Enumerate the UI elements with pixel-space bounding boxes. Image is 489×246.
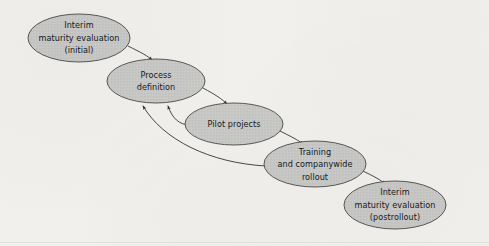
node-interim-initial-line1: Interim: [64, 20, 94, 30]
edge-initial-to-process: [128, 46, 152, 60]
node-interim-postrollout-line1: Interim: [380, 187, 410, 197]
process-improvement-diagram: Interim maturity evaluation (initial) Pr…: [0, 0, 489, 246]
node-process-definition-line1: Process: [140, 70, 171, 80]
diagram-canvas: Interim maturity evaluation (initial) Pr…: [0, 0, 489, 246]
node-pilot-projects[interactable]: Pilot projects: [185, 103, 283, 145]
node-process-definition[interactable]: Process definition: [107, 59, 205, 103]
node-interim-postrollout-line3: (postrollout): [370, 212, 420, 222]
node-interim-postrollout[interactable]: Interim maturity evaluation (postrollout…: [344, 181, 446, 229]
node-interim-postrollout-line2: maturity evaluation: [355, 200, 436, 210]
node-process-definition-line2: definition: [137, 82, 176, 92]
node-training-rollout-line2: and companywide: [278, 159, 353, 169]
edge-process-to-pilot: [203, 88, 227, 104]
node-pilot-projects-line1: Pilot projects: [208, 119, 261, 129]
node-training-rollout-line1: Training: [298, 147, 331, 157]
node-process-definition-shape: [107, 59, 205, 103]
node-interim-initial[interactable]: Interim maturity evaluation (initial): [28, 14, 130, 62]
node-interim-initial-line3: (initial): [64, 45, 93, 55]
node-training-rollout[interactable]: Training and companywide rollout: [264, 141, 366, 187]
node-interim-initial-line2: maturity evaluation: [39, 33, 120, 43]
node-training-rollout-line3: rollout: [302, 172, 328, 182]
